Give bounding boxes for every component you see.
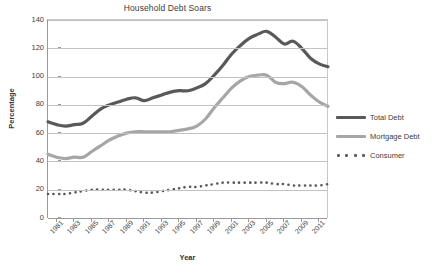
y-axis-tick: 60 <box>14 128 44 137</box>
x-tick-mark <box>231 219 232 222</box>
x-tick-mark <box>143 219 144 222</box>
chart-title: Household Debt Soars <box>0 3 335 13</box>
x-tick-mark <box>266 219 267 222</box>
x-tick-mark <box>318 219 319 222</box>
series-line-total-debt <box>48 31 328 126</box>
gridline <box>48 48 327 49</box>
y-axis-tick: 120 <box>14 43 44 52</box>
gridline <box>48 133 327 134</box>
legend-label: Mortgage Debt <box>370 132 420 141</box>
x-tick-mark <box>108 219 109 222</box>
legend-swatch-icon <box>336 151 366 161</box>
legend-label: Consumer <box>370 151 405 160</box>
x-tick-mark <box>73 219 74 222</box>
chart-legend: Total DebtMortgage DebtConsumer <box>336 108 439 165</box>
y-axis-tick: 40 <box>14 156 44 165</box>
gridline <box>48 77 327 78</box>
legend-swatch-icon <box>336 113 366 123</box>
gridline <box>48 105 327 106</box>
y-axis-tick: 100 <box>14 71 44 80</box>
x-tick-mark <box>213 219 214 222</box>
y-axis-tick: 0 <box>14 213 44 222</box>
household-debt-chart: Household Debt Soars Percentage 14012010… <box>0 0 439 274</box>
y-axis-tick-labels: 140120100806040200 <box>14 12 44 225</box>
series-line-consumer <box>48 183 328 195</box>
legend-label: Total Debt <box>370 113 404 122</box>
x-tick-mark <box>283 219 284 222</box>
x-tick-mark <box>248 219 249 222</box>
series-canvas <box>48 20 328 218</box>
legend-item-total-debt[interactable]: Total Debt <box>336 108 439 127</box>
legend-item-consumer[interactable]: Consumer <box>336 146 439 165</box>
x-axis-tick-labels: 1981198319851987198919911993199519971999… <box>47 219 328 253</box>
y-axis-tick: 20 <box>14 184 44 193</box>
x-tick-mark <box>91 219 92 222</box>
x-axis-title: Year <box>47 253 328 262</box>
gridline <box>48 161 327 162</box>
y-axis-tick: 140 <box>14 15 44 24</box>
gridline <box>48 20 327 21</box>
x-tick-mark <box>56 219 57 222</box>
x-tick-mark <box>126 219 127 222</box>
x-tick-mark <box>196 219 197 222</box>
legend-item-mortgage-debt[interactable]: Mortgage Debt <box>336 127 439 146</box>
x-tick-mark <box>161 219 162 222</box>
x-tick-mark <box>301 219 302 222</box>
y-axis-tick: 80 <box>14 99 44 108</box>
legend-swatch-icon <box>336 132 366 142</box>
x-tick-mark <box>178 219 179 222</box>
plot-area <box>47 19 328 218</box>
gridline <box>48 190 327 191</box>
